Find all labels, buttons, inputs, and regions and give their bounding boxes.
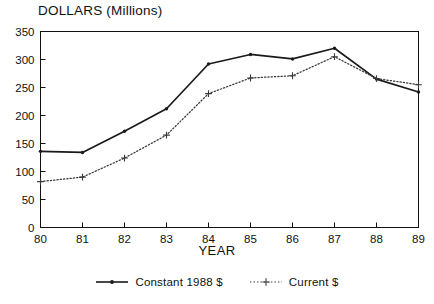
series-line	[41, 48, 419, 152]
data-point-marker	[165, 107, 168, 110]
chart-legend: Constant 1988 $ Current $	[0, 276, 434, 288]
data-point-marker	[207, 62, 210, 65]
legend-item-current: Current $	[249, 276, 339, 288]
data-point-marker	[291, 57, 294, 60]
data-point-marker	[289, 72, 296, 79]
data-point-marker	[333, 47, 336, 50]
series-layer	[37, 47, 422, 185]
data-point-marker	[123, 129, 126, 132]
data-point-marker	[331, 53, 338, 60]
y-tick-label: 250	[15, 82, 34, 94]
legend-swatch-dotted-line-icon	[249, 276, 283, 288]
data-point-marker	[37, 178, 44, 185]
chart-container: DOLLARS (Millions) 050100150200250300350…	[0, 0, 434, 304]
series-2	[37, 53, 422, 185]
legend-item-constant: Constant 1988 $	[95, 276, 222, 288]
data-point-marker	[247, 75, 254, 82]
chart-plot-area: 050100150200250300350 808182838485868788…	[0, 0, 434, 304]
y-tick-label: 50	[22, 194, 35, 206]
x-axis-title: YEAR	[0, 243, 434, 258]
data-point-marker	[415, 81, 422, 88]
y-tick-label: 100	[15, 166, 34, 178]
data-point-marker	[39, 150, 42, 153]
data-point-marker	[79, 174, 86, 181]
data-point-marker	[81, 151, 84, 154]
data-point-marker	[121, 155, 128, 162]
series-1	[39, 47, 420, 155]
y-tick-label: 150	[15, 138, 34, 150]
data-point-marker	[249, 53, 252, 56]
legend-label-current: Current $	[289, 276, 339, 288]
series-line	[41, 57, 419, 182]
y-tick-label: 200	[15, 110, 34, 122]
legend-swatch-solid-line-icon	[95, 276, 129, 288]
y-tick-label: 350	[15, 26, 34, 38]
legend-label-constant: Constant 1988 $	[135, 276, 222, 288]
axis-frame	[41, 32, 419, 228]
x-axis-ticks: 80818283848586878889	[34, 223, 425, 245]
data-point-marker	[417, 90, 420, 93]
data-point-marker	[373, 75, 380, 82]
y-tick-label: 300	[15, 54, 34, 66]
